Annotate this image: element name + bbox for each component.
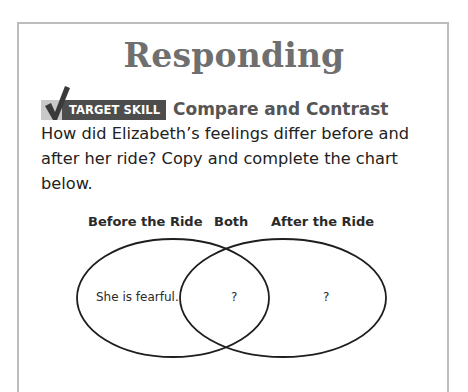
- venn-label-before: Before the Ride: [88, 212, 202, 232]
- venn-region-before: She is fearful.: [96, 289, 179, 305]
- prompt-line: after her ride? Copy and complete the ch…: [41, 146, 441, 171]
- prompt-line: How did Elizabeth’s feelings differ befo…: [41, 121, 441, 146]
- checkmark-icon: [43, 84, 71, 122]
- venn-labels: Before the Ride Both After the Ride: [0, 212, 468, 232]
- venn-label-both: Both: [214, 212, 248, 232]
- venn-circle-after: [180, 239, 386, 357]
- question-prompt: How did Elizabeth’s feelings differ befo…: [41, 121, 441, 196]
- prompt-line: below.: [41, 171, 441, 196]
- venn-region-after: ?: [323, 289, 329, 305]
- skill-title: Compare and Contrast: [173, 96, 389, 122]
- target-skill-header: TARGET SKILL Compare and Contrast: [41, 84, 441, 122]
- venn-label-after: After the Ride: [271, 212, 374, 232]
- page-title: Responding: [0, 36, 468, 76]
- venn-region-both: ?: [231, 289, 237, 305]
- target-skill-badge: TARGET SKILL: [62, 100, 166, 120]
